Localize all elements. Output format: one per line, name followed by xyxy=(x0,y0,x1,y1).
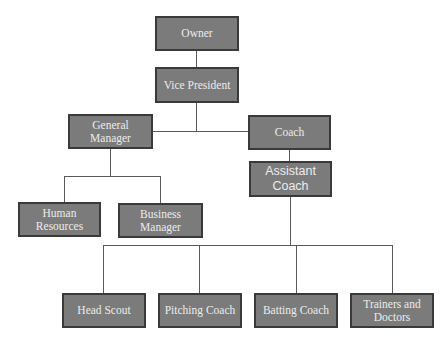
node-assistant-coach: Assistant Coach xyxy=(249,161,332,197)
node-label: Pitching Coach xyxy=(165,304,236,317)
connector-staff-bar xyxy=(103,245,393,246)
connector-gm-coach-bar xyxy=(152,131,248,132)
node-vice-president: Vice President xyxy=(155,67,239,103)
node-owner: Owner xyxy=(155,16,239,51)
node-label: Vice President xyxy=(164,79,231,92)
connector-owner-vp xyxy=(196,50,197,67)
node-label: Owner xyxy=(181,27,212,40)
connector-assistant-down xyxy=(290,196,291,245)
node-label: General Manager xyxy=(73,119,148,145)
connector-trainers xyxy=(392,245,393,293)
node-label: Batting Coach xyxy=(263,304,329,317)
connector-head-scout xyxy=(103,245,104,293)
node-trainers-doctors: Trainers and Doctors xyxy=(350,293,434,328)
node-label: Head Scout xyxy=(77,304,130,317)
node-label: Business Manager xyxy=(123,208,198,234)
node-label: Trainers and Doctors xyxy=(355,298,429,324)
connector-coach-assistant xyxy=(289,149,290,161)
node-pitching-coach: Pitching Coach xyxy=(158,293,242,328)
node-general-manager: General Manager xyxy=(68,114,153,149)
connector-gm-down xyxy=(110,148,111,176)
org-chart: Owner Vice President General Manager Coa… xyxy=(0,0,446,341)
node-human-resources: Human Resources xyxy=(18,202,101,237)
node-batting-coach: Batting Coach xyxy=(254,293,338,328)
connector-pitching xyxy=(199,245,200,293)
node-business-manager: Business Manager xyxy=(118,203,203,238)
connector-hr xyxy=(64,176,65,202)
node-label: Coach xyxy=(275,126,304,139)
connector-bm xyxy=(160,176,161,203)
node-label: Human Resources xyxy=(23,207,96,233)
node-coach: Coach xyxy=(248,115,331,150)
node-head-scout: Head Scout xyxy=(62,293,146,328)
connector-gm-children-bar xyxy=(64,176,161,177)
connector-vp-down xyxy=(196,102,197,131)
node-label: Assistant Coach xyxy=(254,164,327,194)
connector-batting xyxy=(296,245,297,293)
